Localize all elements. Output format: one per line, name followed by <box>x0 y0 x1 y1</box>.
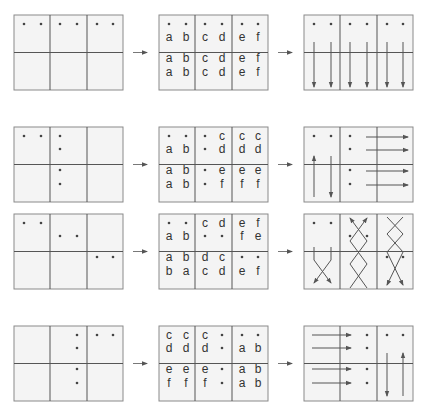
particle-label: d <box>183 341 190 355</box>
particle-dot <box>96 334 99 337</box>
particle-dot <box>204 148 207 151</box>
particle-dot <box>76 334 79 337</box>
particle-label: a <box>166 250 173 264</box>
particle-label: d <box>255 142 262 156</box>
particle-label: a <box>183 264 190 278</box>
row-1: abcdefabcdefabcdef <box>14 15 413 90</box>
particle-label: d <box>219 65 226 79</box>
particle-dot <box>185 135 188 138</box>
particle-label: c <box>255 129 261 143</box>
particle-label: c <box>202 51 208 65</box>
particle-dot <box>204 23 207 26</box>
particle-label: e <box>255 229 262 243</box>
row-2: cccabdddabeeeabfff <box>14 127 413 202</box>
particle-label: a <box>239 362 246 376</box>
particle-dot <box>76 23 79 26</box>
particle-label: e <box>239 216 246 230</box>
particle-dot <box>402 334 405 337</box>
particle-dot <box>349 235 352 238</box>
particle-label: a <box>166 51 173 65</box>
particle-dot <box>257 334 260 337</box>
particle-dot <box>366 368 369 371</box>
particle-dot <box>221 382 224 385</box>
particle-dot <box>168 23 171 26</box>
particle-label: e <box>239 30 246 44</box>
particle-dot <box>59 23 62 26</box>
particle-label: e <box>166 362 173 376</box>
particle-label: d <box>219 51 226 65</box>
initial-configuration-panel <box>14 326 123 401</box>
particle-dot <box>40 135 43 138</box>
particle-dot <box>257 256 260 259</box>
particle-label: d <box>219 264 226 278</box>
particle-label: c <box>202 216 208 230</box>
particle-dot <box>59 235 62 238</box>
diagram-canvas: abcdefabcdefabcdefcccabdddabeeeabfffcdef… <box>0 0 429 417</box>
particle-label: d <box>219 30 226 44</box>
particle-label: b <box>183 65 190 79</box>
particle-dot <box>168 135 171 138</box>
particle-dot <box>221 235 224 238</box>
particle-dot <box>221 368 224 371</box>
particle-label: c <box>202 30 208 44</box>
particle-label: b <box>255 376 262 390</box>
particle-dot <box>349 169 352 172</box>
particle-dot <box>23 135 26 138</box>
particle-label: b <box>255 341 262 355</box>
particle-dot <box>366 23 369 26</box>
particle-label: b <box>183 51 190 65</box>
particle-label: c <box>202 65 208 79</box>
particle-label: c <box>202 328 208 342</box>
particle-label: b <box>166 264 173 278</box>
particle-dot <box>221 347 224 350</box>
particle-dot <box>204 235 207 238</box>
particle-dot <box>386 256 389 259</box>
particle-dot <box>366 382 369 385</box>
particle-dot <box>402 23 405 26</box>
particle-dot <box>366 347 369 350</box>
particle-label: e <box>239 65 246 79</box>
particle-label: a <box>166 30 173 44</box>
particle-dot <box>23 222 26 225</box>
particle-dot <box>221 23 224 26</box>
particle-dot <box>112 256 115 259</box>
particle-label: c <box>219 129 225 143</box>
particle-label: b <box>183 250 190 264</box>
particle-label: a <box>239 376 246 390</box>
particle-dot <box>330 222 333 225</box>
particle-label: e <box>239 51 246 65</box>
particle-dot <box>185 222 188 225</box>
row-3: cdefabfeabdcbacdef <box>14 214 413 289</box>
particle-dot <box>204 135 207 138</box>
motion-panel <box>304 15 413 90</box>
particle-dot <box>386 23 389 26</box>
particle-label: e <box>219 163 226 177</box>
label-assignment-panel: abcdefabcdefabcdef <box>159 15 268 90</box>
particle-label: a <box>166 229 173 243</box>
particle-dot <box>76 235 79 238</box>
particle-dot <box>59 169 62 172</box>
particle-label: e <box>255 163 262 177</box>
label-assignment-panel: cccdddabeeeabfffab <box>159 326 268 401</box>
particle-dot <box>349 23 352 26</box>
particle-dot <box>59 135 62 138</box>
particle-dot <box>366 334 369 337</box>
particle-label: e <box>239 264 246 278</box>
particle-label: c <box>202 264 208 278</box>
initial-configuration-panel <box>14 214 123 289</box>
label-assignment-panel: cdefabfeabdcbacdef <box>159 214 268 289</box>
particle-dot <box>330 23 333 26</box>
particle-dot <box>241 256 244 259</box>
motion-panel <box>304 214 413 289</box>
particle-dot <box>96 23 99 26</box>
particle-dot <box>204 169 207 172</box>
particle-dot <box>168 222 171 225</box>
particle-label: d <box>219 216 226 230</box>
particle-label: b <box>183 30 190 44</box>
particle-label: a <box>166 177 173 191</box>
particle-dot <box>241 23 244 26</box>
particle-label: b <box>255 362 262 376</box>
particle-dot <box>313 135 316 138</box>
particle-label: b <box>183 142 190 156</box>
particle-dot <box>366 235 369 238</box>
